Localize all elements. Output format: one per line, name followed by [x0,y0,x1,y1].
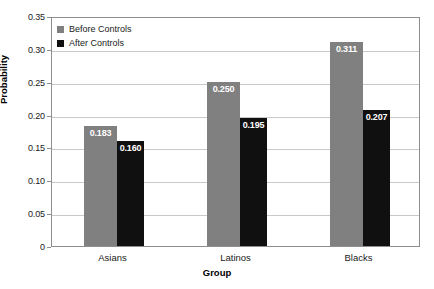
x-tick-label: Latinos [196,252,276,263]
legend-label: After Controls [69,38,124,48]
y-tick-mark [47,247,51,248]
y-tick-label: 0.35 [4,12,45,22]
bar-value-label: 0.195 [240,120,267,131]
gridline [52,51,419,52]
bar: 0.311 [330,42,363,246]
plot-area: 0.1830.1600.2500.1950.3110.207 Before Co… [51,17,420,247]
x-tick-label: Blacks [319,252,399,263]
y-tick-label: 0.20 [4,111,45,121]
bar: 0.250 [207,82,240,246]
y-tick-label: 0.25 [4,78,45,88]
x-tick-label: Asians [73,252,153,263]
bar: 0.160 [117,141,144,246]
bar-value-label: 0.183 [84,128,117,139]
legend-label: Before Controls [69,24,132,34]
plot-inner: 0.1830.1600.2500.1950.3110.207 [52,18,419,246]
bar: 0.207 [363,110,390,246]
bar-value-label: 0.160 [117,143,144,154]
bar: 0.183 [84,126,117,246]
legend-swatch-icon [57,40,64,47]
y-tick-label: 0.15 [4,143,45,153]
y-tick-label: 0.30 [4,45,45,55]
bar: 0.195 [240,118,267,246]
y-tick-label: 0.10 [4,176,45,186]
legend: Before ControlsAfter Controls [57,23,132,51]
y-tick-label: 0 [4,242,45,252]
legend-swatch-icon [57,26,64,33]
bar-value-label: 0.207 [363,112,390,123]
bar-chart: Probability 00.050.100.150.200.250.300.3… [0,0,434,289]
legend-item: Before Controls [57,23,132,35]
legend-item: After Controls [57,37,132,49]
x-axis-title: Group [0,267,434,278]
y-tick-label: 0.05 [4,209,45,219]
bar-value-label: 0.250 [207,84,240,95]
bar-value-label: 0.311 [330,44,363,55]
